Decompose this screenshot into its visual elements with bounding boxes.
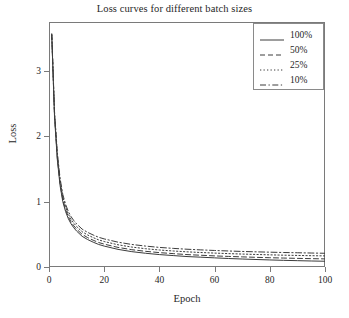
legend-item-label: 25% [290,61,307,71]
legend-item-25pct[interactable]: 25% [254,58,323,73]
legend-item-label: 100% [290,31,312,41]
x-tick-label: 100 [318,275,332,285]
y-tick-label: 1 [36,197,41,207]
x-tick-mark [325,267,326,272]
x-tick-mark [270,267,271,272]
x-tick-mark [215,267,216,272]
legend-item-10pct[interactable]: 10% [254,73,323,88]
y-tick-label: 0 [36,262,41,272]
x-tick-label: 60 [210,275,220,285]
y-tick-label: 2 [36,131,41,141]
legend-item-label: 10% [290,76,307,86]
x-tick-label: 20 [99,275,109,285]
x-tick-mark [104,267,105,272]
legend-item-label: 50% [290,46,307,56]
legend-item-100pct[interactable]: 100% [254,28,323,43]
y-axis-label: Loss [7,104,18,164]
x-tick-mark [159,267,160,272]
chart-title: Loss curves for different batch sizes [0,3,349,14]
legend-line-swatch [259,46,285,56]
x-tick-mark [49,267,50,272]
chart-figure: Loss curves for different batch sizes 01… [0,0,349,318]
legend-line-swatch [259,61,285,71]
chart-legend: 100%50%25%10% [253,23,324,90]
legend-line-swatch [259,76,285,86]
x-tick-label: 80 [265,275,275,285]
legend-line-swatch [259,31,285,41]
y-tick-label: 3 [36,66,41,76]
legend-item-50pct[interactable]: 50% [254,43,323,58]
y-tick-mark [44,267,49,268]
x-tick-label: 40 [155,275,165,285]
x-axis-label: Epoch [49,293,325,304]
x-tick-label: 0 [47,275,52,285]
